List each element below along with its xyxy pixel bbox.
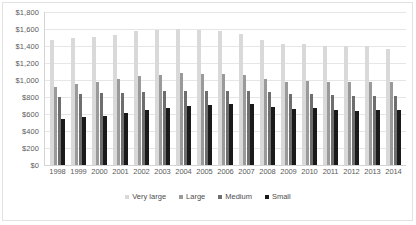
x-axis: 1998199920002001200220032004200520062007… <box>44 167 406 181</box>
bar[interactable] <box>100 93 103 165</box>
bar[interactable] <box>348 82 351 165</box>
bar[interactable] <box>166 108 169 165</box>
y-axis-tick-label: $1,000 <box>15 76 39 85</box>
bar[interactable] <box>271 107 274 165</box>
bar[interactable] <box>155 30 158 165</box>
bar[interactable] <box>386 49 389 165</box>
x-axis-tick-label: 2003 <box>152 167 173 181</box>
bar-group <box>299 12 320 165</box>
bar[interactable] <box>180 73 183 165</box>
bar[interactable] <box>247 91 250 165</box>
bar-group <box>89 12 110 165</box>
bar[interactable] <box>285 82 288 165</box>
y-axis-tick-label: $200 <box>22 144 39 153</box>
y-axis-tick-label: $800 <box>22 93 39 102</box>
x-axis-tick-label: 2009 <box>278 167 299 181</box>
bar[interactable] <box>289 94 292 165</box>
bar[interactable] <box>352 96 355 165</box>
bar[interactable] <box>103 116 106 165</box>
bar[interactable] <box>176 29 179 165</box>
bar[interactable] <box>365 46 368 165</box>
bar[interactable] <box>163 91 166 165</box>
bar[interactable] <box>281 44 284 165</box>
x-axis-tick-label: 2008 <box>257 167 278 181</box>
bar[interactable] <box>159 75 162 165</box>
bar[interactable] <box>260 40 263 165</box>
bar[interactable] <box>323 46 326 165</box>
bar[interactable] <box>92 37 95 165</box>
bar[interactable] <box>243 75 246 165</box>
bar[interactable] <box>142 92 145 165</box>
y-axis-tick-label: $400 <box>22 127 39 136</box>
bar-group <box>47 12 68 165</box>
x-axis-tick-label: 2006 <box>215 167 236 181</box>
legend-item[interactable]: Large <box>179 192 205 201</box>
bar[interactable] <box>96 82 99 165</box>
legend-item[interactable]: Small <box>265 192 291 201</box>
bar[interactable] <box>117 79 120 165</box>
gridline <box>44 165 406 166</box>
legend-swatch-icon <box>265 195 269 199</box>
bar[interactable] <box>79 94 82 165</box>
bar-group <box>278 12 299 165</box>
x-axis-tick-label: 2007 <box>236 167 257 181</box>
bar[interactable] <box>390 82 393 165</box>
bar[interactable] <box>71 38 74 166</box>
bar-group <box>362 12 383 165</box>
bar[interactable] <box>229 104 232 165</box>
bar[interactable] <box>397 110 400 165</box>
bar[interactable] <box>239 34 242 165</box>
bar[interactable] <box>327 82 330 165</box>
bar[interactable] <box>138 76 141 165</box>
bar[interactable] <box>208 105 211 165</box>
bar[interactable] <box>187 106 190 165</box>
bar[interactable] <box>373 96 376 165</box>
bar[interactable] <box>355 111 358 165</box>
legend-item-label: Very large <box>132 192 166 201</box>
bar[interactable] <box>82 117 85 165</box>
bar[interactable] <box>218 31 221 165</box>
bar-series-layer <box>44 12 406 165</box>
bar[interactable] <box>201 74 204 165</box>
legend-item[interactable]: Medium <box>218 192 252 201</box>
x-axis-tick-label: 2002 <box>131 167 152 181</box>
bar[interactable] <box>58 97 61 165</box>
y-axis-tick-label: $1,200 <box>15 59 39 68</box>
bar-group <box>194 12 215 165</box>
bar[interactable] <box>306 81 309 165</box>
bar[interactable] <box>184 91 187 165</box>
bar[interactable] <box>205 91 208 165</box>
bar[interactable] <box>376 110 379 165</box>
bar-group <box>320 12 341 165</box>
bar[interactable] <box>145 110 148 165</box>
bar[interactable] <box>197 30 200 165</box>
x-axis-tick-label: 1998 <box>47 167 68 181</box>
bar[interactable] <box>50 40 53 165</box>
legend-swatch-icon <box>218 195 222 199</box>
bar[interactable] <box>331 95 334 165</box>
bar[interactable] <box>124 113 127 165</box>
bar[interactable] <box>222 74 225 165</box>
bar[interactable] <box>310 94 313 165</box>
bar[interactable] <box>292 109 295 165</box>
bar[interactable] <box>369 82 372 165</box>
y-axis-tick-label: $600 <box>22 110 39 119</box>
bar[interactable] <box>226 91 229 165</box>
bar[interactable] <box>75 84 78 165</box>
bar[interactable] <box>121 93 124 165</box>
bar[interactable] <box>394 96 397 165</box>
bar[interactable] <box>334 110 337 165</box>
bar[interactable] <box>313 108 316 165</box>
bar[interactable] <box>268 92 271 165</box>
bar[interactable] <box>344 46 347 165</box>
bar-group <box>131 12 152 165</box>
bar[interactable] <box>61 119 64 165</box>
bar[interactable] <box>302 44 305 165</box>
bar[interactable] <box>54 87 57 165</box>
legend-item[interactable]: Very large <box>125 192 166 201</box>
bar[interactable] <box>113 35 116 165</box>
bar[interactable] <box>134 31 137 165</box>
legend-swatch-icon <box>125 195 129 199</box>
bar[interactable] <box>250 104 253 165</box>
bar[interactable] <box>264 79 267 165</box>
